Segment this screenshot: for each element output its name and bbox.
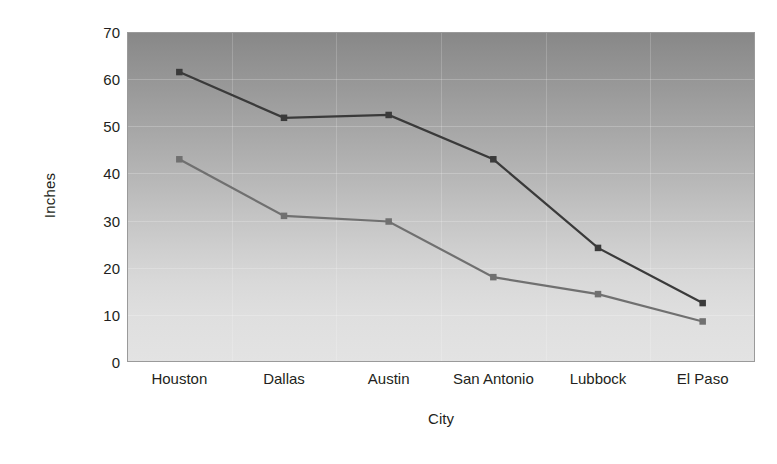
data-point-marker <box>385 112 392 119</box>
data-point-marker <box>490 156 497 163</box>
x-tick-label: El Paso <box>677 370 729 388</box>
series-line <box>179 159 702 321</box>
data-point-marker <box>176 156 183 163</box>
data-point-marker <box>281 115 288 122</box>
data-point-marker <box>699 300 706 307</box>
data-point-marker <box>490 274 497 281</box>
plot-area <box>127 32 755 362</box>
y-tick-label: 70 <box>82 25 120 40</box>
y-tick-label: 50 <box>82 119 120 134</box>
data-point-marker <box>699 318 706 325</box>
y-tick-label: 30 <box>82 213 120 228</box>
y-tick-label: 0 <box>82 355 120 370</box>
x-tick-label: Houston <box>151 370 207 388</box>
y-tick-label: 10 <box>82 307 120 322</box>
x-tick-label: Austin <box>368 370 410 388</box>
x-axis-tick-labels: HoustonDallasAustinSan AntonioLubbockEl … <box>127 370 755 392</box>
y-axis-tick-labels: 010203040506070 <box>82 32 120 362</box>
x-tick-label: Dallas <box>263 370 305 388</box>
y-axis-title-text: Inches <box>42 172 59 217</box>
x-tick-label: Lubbock <box>570 370 627 388</box>
data-point-marker <box>595 245 602 252</box>
x-axis-title: City <box>127 410 755 427</box>
x-tick-label: San Antonio <box>453 370 534 388</box>
series-line <box>179 72 702 303</box>
line-chart-figure: Inches 010203040506070 HoustonDallasAust… <box>0 0 777 464</box>
data-point-marker <box>176 69 183 76</box>
y-tick-label: 40 <box>82 166 120 181</box>
series-layer <box>127 32 755 362</box>
data-point-marker <box>281 213 288 220</box>
y-tick-label: 20 <box>82 260 120 275</box>
data-point-marker <box>595 291 602 298</box>
data-point-marker <box>385 218 392 225</box>
y-tick-label: 60 <box>82 72 120 87</box>
